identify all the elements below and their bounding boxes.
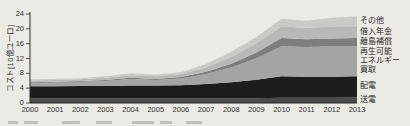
legend-entry-line: その他 [360,16,410,25]
x-tick-label: 2010 [269,105,295,114]
x-tick-label: 2007 [193,105,219,114]
y-tick-label: 8 [4,69,24,77]
y-tick-label: 12 [4,55,24,63]
y-tick-label: 4 [4,84,24,92]
legend-entry-line: 借入年金 [360,27,410,36]
legend-entry-line: 買取 [360,65,410,74]
legend-entry: 離島補償 [360,37,410,46]
legend-entry-line: 再生可能 [360,47,410,56]
legend-entry: 送電 [360,95,410,104]
chart-legend: その他借入年金離島補償再生可能エネルギー買取配電送電 [360,0,410,126]
x-tick-label: 2009 [243,105,269,114]
x-tick-label: 2001 [42,105,68,114]
x-tick-label: 2000 [17,105,43,114]
y-tick-label: 24 [4,10,24,18]
x-tick-label: 2003 [92,105,118,114]
x-tick-label: 2005 [143,105,169,114]
stacked-area-chart: コスト[10億ユーロ] 04812162024 2000200120022003… [0,0,410,126]
legend-entry: 配電 [360,81,410,90]
legend-entry: 再生可能エネルギー買取 [360,47,410,74]
legend-entry-line: 送電 [360,95,410,104]
legend-entry: 借入年金 [360,27,410,36]
x-tick-label: 2006 [168,105,194,114]
x-tick-label: 2002 [67,105,93,114]
legend-entry-line: エネルギー [360,56,410,65]
x-tick-label: 2004 [118,105,144,114]
x-tick-label: 2008 [218,105,244,114]
legend-entry-line: 配電 [360,81,410,90]
y-tick-label: 16 [4,40,24,48]
y-tick-label: 20 [4,25,24,33]
x-tick-label: 2012 [319,105,345,114]
x-tick-label: 2011 [294,105,320,114]
legend-entry: その他 [360,16,410,25]
area-series-0 [30,97,357,103]
legend-entry-line: 離島補償 [360,37,410,46]
